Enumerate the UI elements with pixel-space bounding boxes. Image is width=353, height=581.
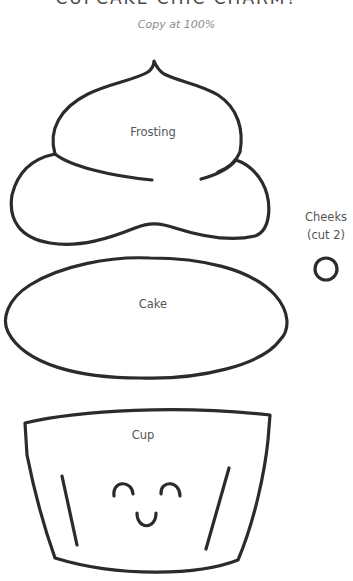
cake-outline	[6, 258, 287, 378]
cheeks-label-line2: (cut 2)	[296, 226, 353, 244]
cup-label: Cup	[103, 428, 183, 442]
frosting-inner-left	[55, 154, 152, 180]
cheeks-label-line1: Cheeks	[296, 208, 353, 226]
cheek-circle	[315, 258, 337, 280]
frosting-top-outline	[53, 61, 241, 172]
cheeks-label: Cheeks (cut 2)	[296, 208, 353, 244]
cup-pleat-left	[62, 476, 77, 545]
cup-pleat-right	[206, 468, 229, 549]
face-smile	[137, 513, 156, 526]
frosting-label: Frosting	[113, 125, 193, 139]
face-right-eye	[161, 484, 180, 496]
face-left-eye	[114, 484, 133, 496]
cake-label: Cake	[113, 297, 193, 311]
template-artwork	[0, 0, 353, 581]
